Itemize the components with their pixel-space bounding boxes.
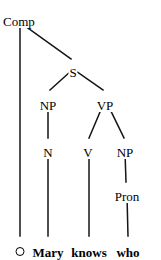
tree-node-np1: NP bbox=[39, 99, 58, 112]
tree-terminal-mary: Mary bbox=[31, 246, 64, 259]
tree-node-vp: VP bbox=[96, 99, 115, 112]
tree-edges-layer bbox=[0, 0, 161, 260]
empty-category-icon bbox=[16, 247, 25, 256]
tree-node-s: S bbox=[68, 66, 77, 79]
tree-node-n: N bbox=[42, 146, 53, 159]
tree-edge-s-vp bbox=[76, 71, 103, 90]
tree-terminal-knows: knows bbox=[70, 246, 107, 259]
tree-node-np2: NP bbox=[116, 146, 135, 159]
tree-node-v: V bbox=[82, 146, 93, 159]
syntax-tree-diagram: CompSNPVPNVNPPron Maryknowswho bbox=[0, 0, 161, 260]
edges-group bbox=[20, 23, 128, 236]
tree-terminal-who: who bbox=[115, 246, 140, 259]
tree-node-pron: Pron bbox=[114, 190, 141, 203]
tree-node-comp: Comp bbox=[2, 15, 36, 28]
